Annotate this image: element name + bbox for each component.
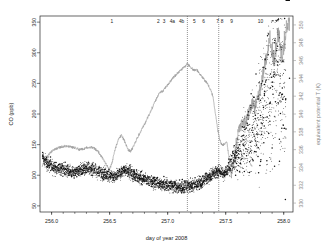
co-point [259, 81, 260, 82]
co-point [253, 152, 254, 153]
co-point [282, 45, 283, 46]
co-point [59, 170, 60, 171]
co-point [80, 164, 81, 165]
co-point [223, 181, 224, 182]
co-point [93, 165, 94, 166]
co-point [189, 187, 190, 188]
co-point [209, 184, 210, 185]
co-point [250, 157, 251, 158]
co-point [91, 163, 92, 164]
co-point [199, 189, 201, 191]
co-point [274, 63, 275, 64]
co-point [60, 172, 62, 174]
co-point [257, 132, 258, 133]
co-point [128, 175, 129, 176]
co-point [141, 176, 142, 177]
co-point [285, 102, 286, 103]
co-point [240, 144, 241, 145]
co-point [156, 180, 157, 181]
co-point [80, 175, 81, 176]
co-point [247, 122, 248, 123]
co-point [249, 161, 251, 163]
co-point [52, 175, 53, 176]
co-point [150, 179, 151, 180]
co-point [253, 122, 254, 123]
co-point [164, 186, 165, 187]
co-point [284, 114, 285, 115]
co-point [259, 149, 260, 150]
co-point [153, 182, 154, 183]
co-point [143, 174, 144, 175]
co-point [252, 165, 253, 166]
co-point [219, 164, 220, 165]
co-point [100, 174, 101, 175]
co-point [268, 87, 269, 88]
co-point [273, 53, 274, 54]
co-point [232, 155, 233, 156]
co-point [278, 20, 279, 21]
co-point [63, 171, 64, 172]
co-point [243, 127, 245, 129]
co-point [131, 178, 132, 179]
co-point [223, 177, 224, 178]
co-point [80, 173, 81, 174]
co-point [254, 101, 255, 102]
co-point [267, 57, 268, 58]
co-point [285, 48, 286, 49]
event-annotation-4a: 4a [170, 19, 176, 24]
co-point [47, 157, 48, 158]
co-point [240, 172, 241, 173]
co-point [244, 163, 245, 164]
co-point [167, 177, 168, 178]
co-point [114, 171, 115, 172]
co-point [245, 141, 246, 142]
co-point [186, 183, 187, 184]
event-annotation-5: 5 [193, 19, 196, 24]
co-point [90, 173, 91, 174]
co-point [108, 177, 109, 178]
co-point [278, 115, 279, 116]
co-point [263, 98, 264, 99]
co-point [179, 179, 181, 181]
y-right-tick-label: 340 [298, 110, 304, 119]
co-point [107, 172, 108, 173]
co-point [204, 185, 205, 186]
co-point [75, 174, 77, 176]
x-axis-ticks: 256.0256.5257.0257.5258.0 [45, 212, 290, 224]
co-point [257, 141, 258, 142]
co-point [64, 162, 66, 164]
co-point [253, 103, 254, 104]
co-point [215, 178, 216, 179]
chart-canvas: 256.0256.5257.0257.5258.0 50100150200250… [0, 0, 329, 252]
co-point [173, 192, 174, 193]
co-point [279, 38, 280, 39]
co-point [280, 113, 282, 115]
co-point [90, 165, 91, 166]
x-tick-label: 257.5 [219, 218, 232, 224]
co-point [261, 133, 262, 134]
co-point [238, 150, 240, 152]
co-point [185, 184, 186, 185]
co-point [258, 129, 259, 130]
co-point [176, 180, 177, 181]
co-point [241, 164, 242, 165]
co-point [186, 185, 187, 186]
co-point [253, 119, 254, 120]
co-point [209, 172, 210, 173]
co-point [132, 175, 133, 176]
co-point [235, 162, 236, 163]
co-point [122, 176, 123, 177]
co-point [220, 171, 221, 172]
co-point [263, 154, 264, 155]
co-point [237, 142, 238, 143]
co-point [182, 190, 184, 192]
co-point [272, 94, 274, 96]
co-point [269, 75, 270, 76]
co-point [211, 171, 212, 172]
co-point [54, 172, 55, 173]
co-point [238, 139, 239, 140]
co-point [281, 142, 282, 143]
co-point [228, 172, 229, 173]
co-point [260, 115, 262, 117]
co-point [255, 128, 256, 129]
